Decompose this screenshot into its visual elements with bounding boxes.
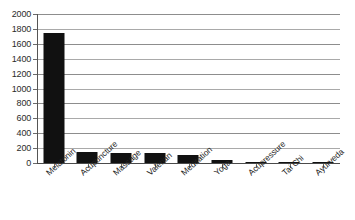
y-axis-tick-label: 1600: [0, 39, 31, 48]
y-axis-tick-label: 1400: [0, 54, 31, 63]
y-axis-tick-label: 1800: [0, 24, 31, 33]
y-axis-tick-label: 400: [0, 129, 31, 138]
bar-slot: [239, 14, 273, 163]
y-axis-tick-label: 1200: [0, 69, 31, 78]
y-axis-tick-label: 1000: [0, 84, 31, 93]
y-axis-tick-label: 2000: [0, 10, 31, 19]
bar-slot: [138, 14, 172, 163]
bar-slot: [306, 14, 340, 163]
y-axis-tick-label: 0: [0, 159, 31, 168]
bar[interactable]: [43, 33, 64, 163]
bar-slot: [172, 14, 206, 163]
bar-slot: [37, 14, 71, 163]
bar-slot: [71, 14, 105, 163]
bar-slot: [205, 14, 239, 163]
y-axis-tick-label: 600: [0, 114, 31, 123]
y-axis-tick-label: 800: [0, 99, 31, 108]
y-axis-tick-label: 200: [0, 144, 31, 153]
bar-series: [37, 14, 340, 163]
bar-chart: 0200400600800100012001400160018002000 Me…: [0, 0, 355, 220]
